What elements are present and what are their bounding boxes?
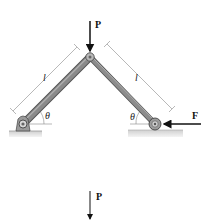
right-length-dimension [104,41,175,112]
left-length-label: l [43,72,46,83]
force-f-label: F [192,110,198,121]
right-ground [128,130,183,137]
left-angle-label: θ [45,110,50,121]
top-pin [86,53,94,61]
force-f-arrow: F [164,110,201,124]
bottom-force-p-arrow: P [90,191,102,219]
right-roller-support [149,118,161,130]
force-p-label: P [95,19,101,30]
left-ground [9,131,42,137]
toggle-linkage-diagram: P F l l θ θ P [0,0,202,221]
force-p-arrow: P [90,19,101,51]
right-angle-label: θ [130,111,135,122]
right-length-label: l [135,72,138,83]
right-member [90,57,156,124]
bottom-force-p-label: P [96,191,102,202]
